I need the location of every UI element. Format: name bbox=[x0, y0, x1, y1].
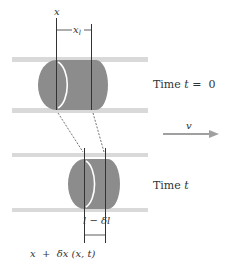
top-time-label: Time t = 0 bbox=[153, 78, 215, 91]
bottom-tube-upper-wall bbox=[12, 153, 148, 157]
velocity-arrowhead-icon bbox=[209, 130, 219, 138]
bottom-time-label: Time t bbox=[153, 179, 189, 192]
top-state: x xl Time t = 0 bbox=[12, 6, 215, 113]
bottom-position-label: x + δx (x, t) bbox=[30, 248, 95, 259]
top-length-label: xl bbox=[73, 24, 81, 37]
connector-right bbox=[93, 113, 104, 152]
top-position-label: x bbox=[54, 6, 60, 17]
bottom-length-label: l − δl bbox=[83, 215, 110, 226]
velocity-label: v bbox=[186, 120, 192, 131]
bottom-tube-lower-wall bbox=[12, 208, 148, 212]
top-cylinder bbox=[38, 60, 108, 110]
bottom-state: l − δl x + δx (x, t) Time t bbox=[12, 148, 189, 259]
connector-left bbox=[58, 113, 83, 152]
velocity-arrow: v bbox=[163, 120, 219, 138]
moving-cylinder-diagram: x xl Time t = 0 v l − δl x + δx (x, t) T… bbox=[0, 0, 230, 266]
